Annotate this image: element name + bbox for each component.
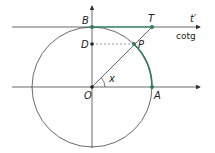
point-P (132, 42, 136, 46)
label-T: T (148, 13, 155, 24)
arc-AP (134, 44, 152, 87)
label-A: A (153, 90, 161, 101)
cotangent-diagram: B T t′ cotg D P x O A (0, 0, 215, 153)
point-B (90, 25, 94, 29)
point-A (150, 85, 154, 89)
label-P: P (138, 39, 145, 50)
label-cotg: cotg (176, 31, 196, 41)
point-T (150, 25, 154, 29)
point-D (90, 42, 94, 46)
label-x: x (108, 73, 115, 84)
angle-x-arc (101, 78, 105, 87)
point-O (90, 85, 94, 89)
label-O: O (84, 90, 92, 101)
label-B: B (82, 15, 89, 26)
label-D: D (81, 39, 89, 50)
label-t-prime: t′ (190, 13, 197, 24)
